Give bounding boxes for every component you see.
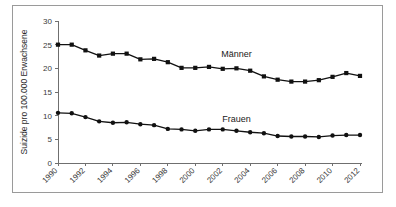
data-point [207, 65, 211, 69]
series-layer [56, 43, 362, 140]
x-tick-label: 1994 [95, 166, 114, 185]
data-point [97, 119, 101, 123]
series-annotations: MännerFrauen [221, 49, 252, 124]
data-point [56, 43, 60, 47]
data-point [111, 121, 115, 125]
data-point [221, 127, 225, 131]
data-point [111, 52, 115, 56]
data-point [234, 66, 238, 70]
data-point [358, 74, 362, 78]
y-tick-label: 10 [43, 112, 52, 121]
series-line-1 [58, 45, 360, 82]
data-point [330, 75, 334, 79]
y-axis: 051015202530 [43, 17, 58, 168]
data-point [152, 57, 156, 61]
chart-figure: 051015202530 199019921994199619982000200… [0, 0, 396, 207]
data-point [317, 78, 321, 82]
y-tick-label: 25 [43, 41, 52, 50]
data-point [248, 69, 252, 73]
data-point [303, 79, 307, 83]
x-tick-label: 1998 [150, 166, 169, 185]
data-point [289, 79, 293, 83]
data-point [138, 57, 142, 61]
x-tick-label: 1990 [40, 166, 59, 185]
series-annotation: Frauen [222, 114, 251, 124]
series-line-2 [58, 113, 360, 137]
y-tick-label: 20 [43, 64, 52, 73]
data-point [276, 78, 280, 82]
data-point [97, 53, 101, 57]
data-point [358, 133, 362, 137]
y-axis-title: Suizide pro 100.000 Erwachsene [19, 29, 29, 154]
data-point [193, 129, 197, 133]
x-tick-label: 2004 [233, 166, 252, 185]
data-point [248, 130, 252, 134]
data-point [70, 43, 74, 47]
x-tick-label: 1996 [123, 166, 142, 185]
data-point [344, 71, 348, 75]
data-point [289, 134, 293, 138]
data-point [234, 129, 238, 133]
data-point [124, 120, 128, 124]
data-point [83, 115, 87, 119]
data-point [193, 66, 197, 70]
x-tick-label: 1992 [68, 166, 87, 185]
data-point [152, 123, 156, 127]
x-tick-label: 2000 [178, 166, 197, 185]
x-tick-label: 2012 [342, 166, 361, 185]
y-tick-label: 15 [43, 88, 52, 97]
data-point [56, 111, 60, 115]
data-point [83, 48, 87, 52]
data-point [330, 133, 334, 137]
y-tick-label: 5 [48, 135, 53, 144]
series-annotation: Männer [221, 49, 252, 59]
data-point [221, 67, 225, 71]
data-point [166, 127, 170, 131]
x-tick-label: 2002 [205, 166, 224, 185]
data-point [179, 66, 183, 70]
data-point [179, 127, 183, 131]
data-point [344, 133, 348, 137]
data-point [303, 134, 307, 138]
data-point [317, 135, 321, 139]
data-point [166, 60, 170, 64]
data-point [262, 74, 266, 78]
line-chart: 051015202530 199019921994199619982000200… [0, 0, 396, 207]
y-tick-label: 30 [43, 17, 52, 26]
x-tick-label: 2008 [288, 166, 307, 185]
data-point [138, 122, 142, 126]
x-axis: 1990199219941996199820002002200420062008… [40, 163, 362, 185]
data-point [275, 134, 279, 138]
data-point [262, 131, 266, 135]
data-point [70, 111, 74, 115]
x-tick-label: 2010 [315, 166, 334, 185]
data-point [207, 127, 211, 131]
data-point [125, 52, 129, 56]
x-tick-label: 2006 [260, 166, 279, 185]
